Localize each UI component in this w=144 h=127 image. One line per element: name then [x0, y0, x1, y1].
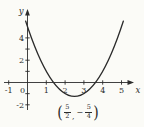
close-paren: ): [93, 103, 98, 121]
x-axis-arrowhead: [128, 80, 135, 85]
y-tick-label: 2: [19, 56, 24, 65]
minus-sign: −: [76, 108, 83, 117]
y-tick-label: 4: [19, 34, 24, 43]
axes-layer: -101234542-2xy: [4, 6, 141, 110]
x-fraction: 5 2: [64, 104, 71, 121]
y-axis-arrowhead: [25, 9, 30, 16]
x-tick-label: 4: [100, 86, 105, 95]
x-tick-label: 0: [20, 86, 25, 95]
open-paren: (: [57, 103, 62, 121]
x-tick-label: 5: [119, 86, 124, 95]
math-graph-figure: -101234542-2xy ( 5 2 , − 5 4 ): [0, 0, 144, 127]
vertex-coordinate-label: ( 5 2 , − 5 4 ): [49, 100, 107, 124]
y-tick-label: -2: [16, 101, 24, 110]
parabola-curve: [26, 21, 124, 96]
x-axis-letter: x: [136, 85, 141, 95]
y-fraction: 5 4: [85, 104, 92, 121]
y-axis-letter: y: [18, 6, 24, 16]
x-tick-label: 1: [44, 86, 49, 95]
x-tick-label: -1: [5, 86, 13, 95]
curve-layer: [26, 21, 124, 96]
comma: ,: [72, 112, 75, 121]
